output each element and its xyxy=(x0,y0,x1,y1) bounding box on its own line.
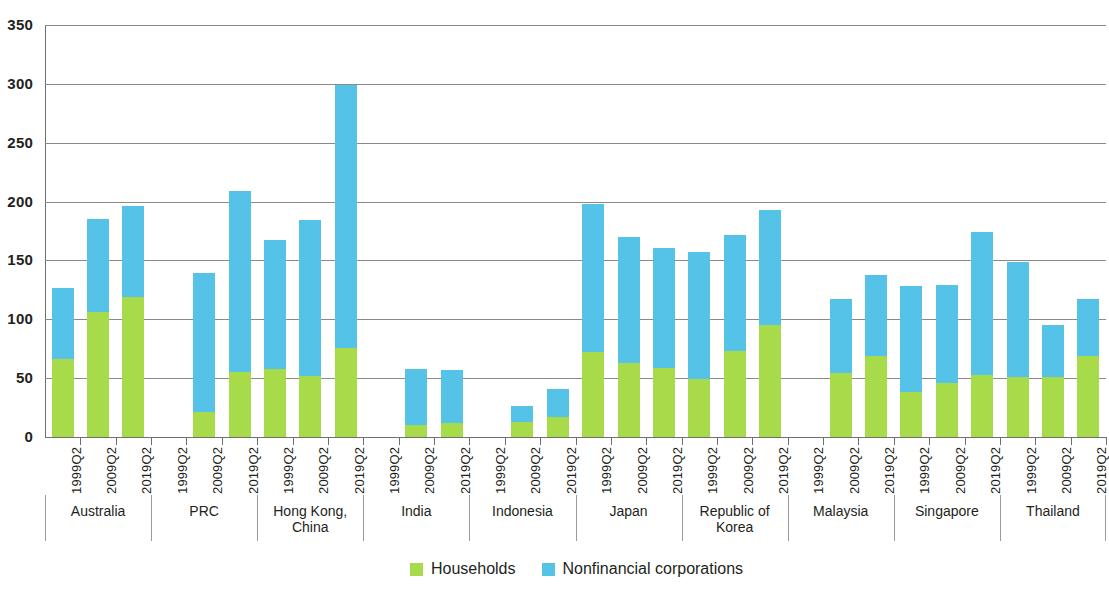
bar-segment-nonfinancial-corporations xyxy=(441,370,463,423)
group-label-hong-kong-china: Hong Kong, China xyxy=(257,503,363,535)
bar-singapore-1999Q2 xyxy=(900,286,922,437)
bar-hong-kong-china-1999Q2 xyxy=(264,240,286,437)
bar-segment-nonfinancial-corporations xyxy=(936,285,958,383)
x-axis-group-labels: AustraliaPRCHong Kong, ChinaIndiaIndones… xyxy=(45,495,1106,541)
bar-segment-households xyxy=(582,352,604,437)
y-tick-label-100: 100 xyxy=(0,310,33,327)
bar-segment-households xyxy=(936,383,958,437)
bar-segment-households xyxy=(1042,377,1064,437)
bar-segment-households xyxy=(122,297,144,437)
bar-segment-nonfinancial-corporations xyxy=(653,248,675,368)
x-tick xyxy=(894,437,895,445)
legend-swatch-nonfinancial-corporations xyxy=(542,563,555,576)
bar-segment-nonfinancial-corporations xyxy=(405,369,427,426)
x-tick xyxy=(293,437,294,445)
bar-segment-households xyxy=(229,372,251,437)
bar-japan-2019Q2 xyxy=(653,247,675,437)
bar-segment-nonfinancial-corporations xyxy=(547,389,569,417)
bar-hong-kong-china-2009Q2 xyxy=(299,220,321,437)
bar-prc-2019Q2 xyxy=(229,191,251,437)
x-tick xyxy=(469,437,470,445)
group-label-singapore: Singapore xyxy=(894,503,1000,519)
x-tick xyxy=(611,437,612,445)
bar-segment-nonfinancial-corporations xyxy=(688,252,710,379)
bar-republic-of-korea-2009Q2 xyxy=(724,235,746,437)
x-tick xyxy=(1035,437,1036,445)
group-label-republic-of-korea: Republic of Korea xyxy=(682,503,788,535)
y-tick-label-350: 350 xyxy=(0,16,33,33)
bar-segment-nonfinancial-corporations xyxy=(618,237,640,363)
bar-segment-households xyxy=(900,392,922,437)
bar-segment-nonfinancial-corporations xyxy=(865,275,887,356)
legend-item-households: Households xyxy=(410,560,516,578)
x-tick xyxy=(717,437,718,445)
y-tick-label-0: 0 xyxy=(0,428,33,445)
x-tick xyxy=(116,437,117,445)
group-label-india: India xyxy=(363,503,469,519)
bar-singapore-2019Q2 xyxy=(971,232,993,437)
bar-thailand-1999Q2 xyxy=(1007,262,1029,437)
bar-segment-nonfinancial-corporations xyxy=(87,219,109,312)
bar-segment-households xyxy=(971,375,993,437)
bar-segment-nonfinancial-corporations xyxy=(1042,325,1064,377)
group-label-malaysia: Malaysia xyxy=(788,503,894,519)
bar-segment-nonfinancial-corporations xyxy=(1077,299,1099,356)
x-tick xyxy=(257,437,258,445)
y-tick-label-250: 250 xyxy=(0,134,33,151)
bar-australia-2009Q2 xyxy=(87,219,109,437)
group-label-indonesia: Indonesia xyxy=(469,503,575,519)
bar-segment-nonfinancial-corporations xyxy=(511,406,533,421)
bar-segment-households xyxy=(1077,356,1099,437)
bar-segment-households xyxy=(264,369,286,437)
x-tick xyxy=(363,437,364,445)
bar-segment-nonfinancial-corporations xyxy=(299,220,321,375)
bar-segment-nonfinancial-corporations xyxy=(229,191,251,372)
bar-australia-1999Q2 xyxy=(52,288,74,437)
bar-thailand-2019Q2 xyxy=(1077,299,1099,437)
plot-area xyxy=(45,25,1106,437)
bar-thailand-2009Q2 xyxy=(1042,325,1064,437)
bar-segment-nonfinancial-corporations xyxy=(52,288,74,360)
x-tick xyxy=(682,437,683,445)
bar-japan-1999Q2 xyxy=(582,204,604,437)
x-tick xyxy=(1106,437,1107,445)
bar-segment-nonfinancial-corporations xyxy=(759,210,781,325)
bar-australia-2019Q2 xyxy=(122,206,144,437)
x-tick xyxy=(752,437,753,445)
bar-republic-of-korea-1999Q2 xyxy=(688,252,710,437)
bar-segment-households xyxy=(688,379,710,437)
legend-label-households: Households xyxy=(431,560,516,578)
y-tick-label-300: 300 xyxy=(0,75,33,92)
legend-swatch-households xyxy=(410,563,423,576)
bar-india-2009Q2 xyxy=(405,369,427,437)
bar-segment-households xyxy=(87,312,109,437)
bar-segment-households xyxy=(335,348,357,437)
group-label-thailand: Thailand xyxy=(1000,503,1106,519)
bar-segment-nonfinancial-corporations xyxy=(122,206,144,297)
bar-singapore-2009Q2 xyxy=(936,285,958,437)
x-tick xyxy=(434,437,435,445)
bar-republic-of-korea-2019Q2 xyxy=(759,210,781,437)
x-tick xyxy=(399,437,400,445)
bar-segment-nonfinancial-corporations xyxy=(582,204,604,352)
bar-segment-households xyxy=(724,351,746,437)
bar-segment-households xyxy=(547,417,569,437)
x-tick xyxy=(858,437,859,445)
group-label-australia: Australia xyxy=(45,503,151,519)
bar-segment-households xyxy=(441,423,463,437)
legend-label-nonfinancial-corporations: Nonfinancial corporations xyxy=(563,560,744,578)
bar-segment-nonfinancial-corporations xyxy=(971,232,993,374)
bar-segment-households xyxy=(52,359,74,437)
x-tick xyxy=(646,437,647,445)
x-tick xyxy=(328,437,329,445)
bar-segment-nonfinancial-corporations xyxy=(335,85,357,348)
y-tick-label-50: 50 xyxy=(0,369,33,386)
bar-segment-households xyxy=(653,368,675,437)
legend-item-nonfinancial-corporations: Nonfinancial corporations xyxy=(542,560,744,578)
x-tick xyxy=(788,437,789,445)
bar-segment-nonfinancial-corporations xyxy=(193,273,215,412)
x-tick xyxy=(186,437,187,445)
group-label-japan: Japan xyxy=(576,503,682,519)
bar-segment-nonfinancial-corporations xyxy=(264,240,286,368)
